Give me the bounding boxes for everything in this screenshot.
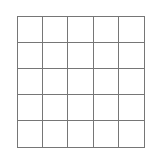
grid-cell-r3-c5 [119, 69, 144, 95]
grid-cell-r1-c4 [94, 17, 119, 43]
grid-cell-r2-c2 [43, 43, 68, 69]
grid-cell-r4-c4 [94, 95, 119, 121]
grid-cell-r5-c4 [94, 121, 119, 147]
grid-cell-r1-c1 [18, 17, 43, 43]
canvas [0, 0, 156, 157]
grid-cell-r5-c2 [43, 121, 68, 147]
grid-cell-r2-c3 [68, 43, 93, 69]
grid-cell-r2-c1 [18, 43, 43, 69]
grid-cell-r4-c5 [119, 95, 144, 121]
grid-cell-r3-c2 [43, 69, 68, 95]
grid-cell-r1-c5 [119, 17, 144, 43]
grid-cell-r5-c3 [68, 121, 93, 147]
grid-cell-r3-c4 [94, 69, 119, 95]
grid-cell-r4-c3 [68, 95, 93, 121]
grid-cell-r3-c1 [18, 69, 43, 95]
grid-cell-r2-c4 [94, 43, 119, 69]
grid-cell-r5-c1 [18, 121, 43, 147]
grid-cell-r5-c5 [119, 121, 144, 147]
grid-cell-r3-c3 [68, 69, 93, 95]
grid-cell-r1-c3 [68, 17, 93, 43]
grid-cell-r2-c5 [119, 43, 144, 69]
grid-cell-r4-c2 [43, 95, 68, 121]
grid-cell-r1-c2 [43, 17, 68, 43]
grid-5x5 [17, 16, 145, 148]
grid-cell-r4-c1 [18, 95, 43, 121]
